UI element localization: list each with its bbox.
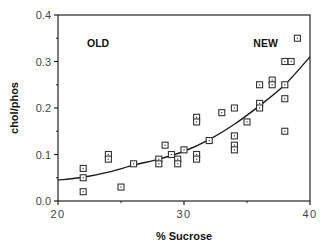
y-tick-label: 0.3 xyxy=(36,56,51,68)
fitted-curve xyxy=(58,57,310,180)
data-point xyxy=(219,110,225,116)
x-tick-label: 40 xyxy=(302,208,317,220)
data-point xyxy=(80,175,86,181)
data-point xyxy=(105,156,111,162)
data-point xyxy=(231,105,237,111)
annotation-new: NEW xyxy=(253,37,278,49)
data-point xyxy=(282,82,288,88)
data-point xyxy=(162,142,168,148)
data-point xyxy=(231,147,237,153)
data-point xyxy=(294,35,300,41)
data-point xyxy=(131,161,137,167)
data-point xyxy=(206,138,212,144)
y-tick-label: 0.4 xyxy=(36,9,51,21)
data-point xyxy=(257,82,263,88)
data-point xyxy=(282,96,288,102)
x-axis-title: % Sucrose xyxy=(156,230,212,242)
data-point xyxy=(118,184,124,190)
data-point xyxy=(269,82,275,88)
x-tick-label: 30 xyxy=(176,208,191,220)
data-point xyxy=(80,189,86,195)
data-point xyxy=(231,133,237,139)
x-tick-label: 20 xyxy=(50,208,65,220)
data-point xyxy=(181,147,187,153)
data-point xyxy=(257,105,263,111)
data-point xyxy=(80,165,86,171)
data-point xyxy=(156,161,162,167)
data-point xyxy=(282,128,288,134)
y-axis-title: chol/phos xyxy=(8,82,20,134)
data-point xyxy=(194,156,200,162)
data-point xyxy=(244,119,250,125)
data-point xyxy=(175,161,181,167)
y-tick-label: 0.0 xyxy=(36,195,51,207)
data-point xyxy=(168,152,174,158)
y-tick-label: 0.1 xyxy=(36,149,51,161)
annotation-old: OLD xyxy=(87,37,110,49)
data-point xyxy=(282,59,288,65)
fit-curve-path xyxy=(58,57,310,180)
y-axis: 0.00.10.20.30.4 xyxy=(36,9,58,207)
data-point xyxy=(288,59,294,65)
data-point xyxy=(194,119,200,125)
scatter-chart: 0.00.10.20.30.4 203040 OLDNEW % Sucrose … xyxy=(0,0,326,245)
y-tick-label: 0.2 xyxy=(36,102,51,114)
annotations: OLDNEW xyxy=(87,37,278,49)
x-axis: 203040 xyxy=(50,201,317,220)
